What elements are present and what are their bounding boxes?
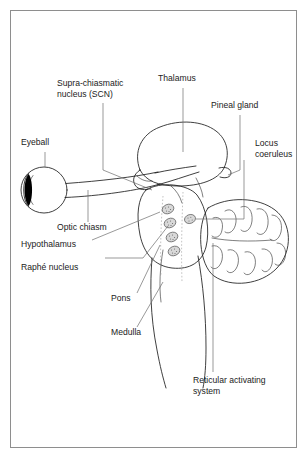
- label-locus-coeruleus-line2: coeruleus: [255, 149, 292, 159]
- label-suprachiasmatic-nucleus-line1: Supra-chiasmatic: [57, 78, 124, 88]
- brain-sleep-diagram: Supra-chiasmatic nucleus (SCN) Thalamus …: [0, 0, 307, 458]
- raphe-nucleus-oval: [163, 216, 178, 229]
- label-locus-coeruleus-line1: Locus: [255, 138, 278, 148]
- raphe-nucleus-oval: [161, 202, 176, 215]
- medulla: [151, 250, 206, 388]
- cerebellum: [201, 200, 289, 284]
- eyeball-structure: [21, 167, 67, 213]
- optic-chiasm: [155, 166, 199, 185]
- label-eyeball: Eyeball: [21, 137, 49, 147]
- anatomy-group: [21, 122, 288, 388]
- label-reticular-activating-system-line1: Reticular activating: [193, 375, 266, 385]
- raphe-nucleus-oval: [167, 244, 182, 257]
- locus-coeruleus-nucleus: [183, 213, 196, 225]
- label-pons: Pons: [111, 293, 131, 303]
- figure-root: Supra-chiasmatic nucleus (SCN) Thalamus …: [0, 0, 307, 458]
- label-pineal-gland: Pineal gland: [211, 100, 259, 110]
- leader-pons: [137, 245, 160, 293]
- label-hypothalamus: Hypothalamus: [21, 239, 76, 249]
- label-thalamus: Thalamus: [158, 73, 196, 83]
- raphe-nuclei-chain: [161, 202, 197, 257]
- label-suprachiasmatic-nucleus-line2: nucleus (SCN): [57, 89, 113, 99]
- label-optic-chiasm: Optic chiasm: [57, 222, 107, 232]
- label-raphe-nucleus: Raphé nucleus: [21, 262, 78, 272]
- leader-pineal-gland: [228, 115, 240, 175]
- label-medulla: Medulla: [111, 327, 141, 337]
- leader-locus-coeruleus: [196, 160, 244, 219]
- raphe-nucleus-oval: [165, 230, 180, 243]
- thalamus: [137, 122, 227, 186]
- label-reticular-activating-system-line2: system: [193, 386, 220, 396]
- leader-medulla: [137, 282, 163, 327]
- optic-nerve: [65, 172, 160, 198]
